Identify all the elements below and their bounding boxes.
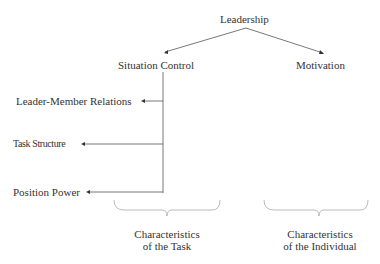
arrowhead-icon [319, 50, 324, 54]
caption-task: Characteristics of the Task [127, 228, 207, 252]
node-leader-member-relations: Leader-Member Relations [16, 95, 132, 107]
caption-individual-line2: of the Individual [273, 240, 367, 252]
arrow-root-to-situation-control [165, 28, 246, 52]
node-position-power: Position Power [13, 186, 80, 198]
node-task-structure: Task Structure [13, 138, 65, 150]
caption-individual: Characteristics of the Individual [273, 228, 367, 252]
arrowhead-icon [141, 99, 145, 103]
caption-individual-line1: Characteristics [273, 228, 367, 240]
arrowhead-icon [86, 190, 90, 194]
node-motivation: Motivation [296, 59, 345, 71]
node-situation-control: Situation Control [118, 59, 194, 71]
arrowhead-icon [81, 142, 85, 146]
brace-task-icon [114, 200, 220, 216]
arrow-root-to-motivation [246, 28, 323, 53]
caption-task-line2: of the Task [127, 240, 207, 252]
root-node-leadership: Leadership [220, 13, 269, 25]
arrowhead-icon [164, 50, 168, 54]
caption-task-line1: Characteristics [127, 228, 207, 240]
brace-individual-icon [264, 200, 368, 216]
connector-lines [0, 0, 380, 264]
